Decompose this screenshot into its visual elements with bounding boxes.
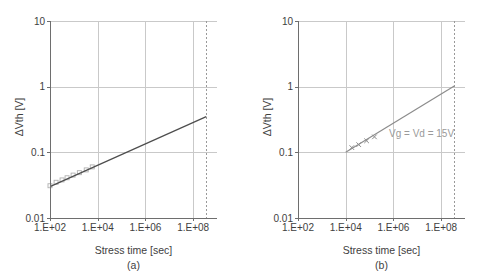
y-axis-label-b: ΔVth [V] (261, 57, 273, 177)
y-tick-label: 10 (282, 16, 294, 27)
x-tick-label: 1.E+04 (82, 222, 114, 233)
panel-a: 1.E+021.E+041.E+061.E+080.010.1110 (26, 16, 217, 234)
panel-caption-a: (a) (50, 259, 217, 271)
panel-b: 1.E+021.E+041.E+061.E+080.010.1110 (274, 16, 465, 234)
y-tick-label: 0.1 (279, 147, 293, 158)
y-tick-label: 0.01 (274, 213, 294, 224)
fit-line-a (50, 117, 206, 187)
y-axis-label-a: ΔVth [V] (13, 57, 25, 177)
panel-caption-b: (b) (298, 259, 465, 271)
y-tick-label: 0.01 (26, 213, 46, 224)
y-tick-label: 0.1 (31, 147, 45, 158)
x-tick-label: 1.E+08 (425, 222, 457, 233)
figure: 1.E+021.E+041.E+061.E+080.010.11101.E+02… (0, 0, 479, 277)
x-axis-label-b: Stress time [sec] (298, 244, 465, 256)
x-tick-label: 1.E+02 (34, 222, 66, 233)
fit-line-b (346, 86, 455, 152)
x-tick-label: 1.E+08 (177, 222, 209, 233)
x-axis-label-a: Stress time [sec] (50, 244, 217, 256)
y-tick-label: 1 (287, 81, 293, 92)
y-tick-label: 1 (39, 81, 45, 92)
x-tick-label: 1.E+06 (377, 222, 409, 233)
x-tick-label: 1.E+04 (330, 222, 362, 233)
x-tick-label: 1.E+02 (282, 222, 314, 233)
x-tick-label: 1.E+06 (129, 222, 161, 233)
bias-condition-annotation: Vg = Vd = 15V (389, 128, 454, 139)
y-tick-label: 10 (34, 16, 46, 27)
